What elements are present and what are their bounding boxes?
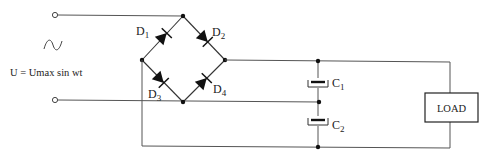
node-cap-bottom: [316, 145, 320, 149]
node-bridge-top: [181, 14, 185, 18]
ac-sine-icon: [44, 40, 62, 50]
diode-d4-label: D4: [213, 82, 227, 98]
diode-d1-label: D1: [136, 24, 149, 40]
input-terminal-top: [52, 12, 57, 17]
capacitor-c2-label: C2: [332, 118, 345, 134]
source-equation: U = Umax sin wt: [10, 67, 83, 78]
node-cap-mid: [317, 100, 321, 104]
wire-negative-rail: [142, 146, 450, 148]
node-cap-top: [316, 59, 320, 63]
diode-d2-label: D2: [212, 25, 225, 41]
wire-input-top: [58, 15, 183, 16]
wire-input-bottom: [58, 100, 320, 102]
diode-d3-label: D3: [148, 87, 162, 103]
bridge-rectifier-diagram: U = Umax sin wt D1 D2 D3 D4: [0, 0, 494, 158]
input-terminal-bottom: [52, 97, 57, 102]
node-bridge-bottom: [181, 100, 185, 104]
capacitor-c2: [308, 116, 328, 126]
load-label: LOAD: [437, 103, 467, 114]
capacitor-c1-label: C1: [332, 76, 345, 92]
wire-positive-rail: [225, 60, 450, 62]
capacitor-c1: [308, 78, 328, 88]
